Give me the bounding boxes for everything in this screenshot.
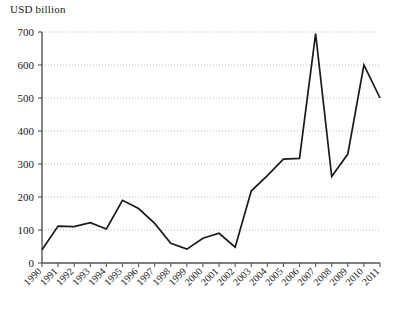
chart-figure: USD billion 0100200300400500600700 19901… [0,0,397,320]
data-series-line [42,34,380,250]
y-tick-labels: 0100200300400500600700 [18,26,35,269]
x-tick-label: 2011 [360,266,382,288]
y-tick-label: 600 [18,59,35,71]
grid-lines [42,32,380,230]
x-tick-labels: 1990199119921993199419951996199719981999… [21,266,381,288]
y-tick-label: 700 [18,26,35,38]
line-chart-plot: 0100200300400500600700 19901991199219931… [0,0,397,320]
series-line-usd-billion [42,34,380,250]
y-tick-label: 200 [18,191,35,203]
y-tick-label: 300 [18,158,35,170]
y-axis [38,32,42,263]
y-tick-label: 400 [18,125,35,137]
y-tick-label: 100 [18,224,35,236]
y-tick-label: 500 [18,92,35,104]
